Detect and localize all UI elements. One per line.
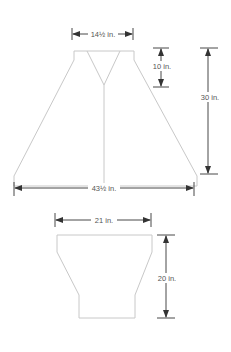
length-dimension: 30 in. xyxy=(194,48,226,174)
collar-height-label: 20 in. xyxy=(158,274,176,283)
collar-piece xyxy=(57,235,152,318)
bottom-width-dimension: 43½ in. xyxy=(14,182,194,196)
cape-body-piece xyxy=(14,51,197,186)
collar-width-dimension: 21 in. xyxy=(55,213,151,227)
collar-height-dimension: 20 in. xyxy=(154,235,180,318)
schematic-canvas: 14½ in. 10 in. 30 in. 43½ in. 21 in. xyxy=(0,0,231,352)
collar-width-label: 21 in. xyxy=(95,216,113,225)
neck-depth-dimension: 10 in. xyxy=(150,48,174,87)
bottom-width-label: 43½ in. xyxy=(92,184,117,193)
neck-width-dimension: 14½ in. xyxy=(72,28,133,40)
length-label: 30 in. xyxy=(201,93,219,102)
neck-depth-label: 10 in. xyxy=(153,62,171,71)
neck-width-label: 14½ in. xyxy=(91,30,116,39)
